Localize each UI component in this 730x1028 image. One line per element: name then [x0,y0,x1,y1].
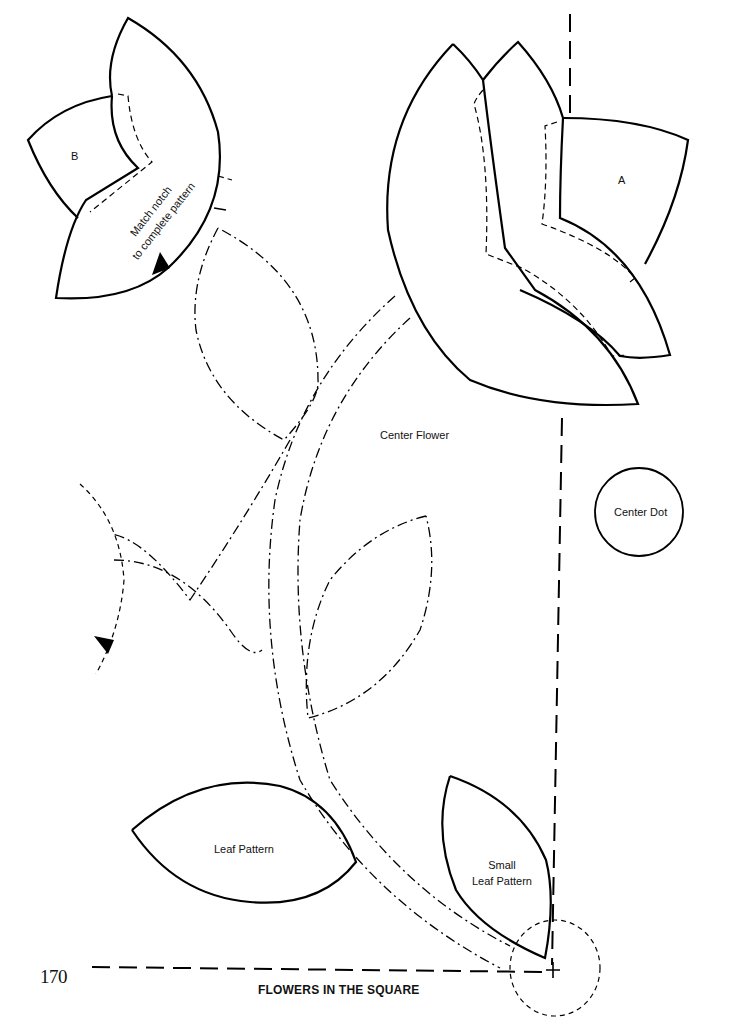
page-title: FLOWERS IN THE SQUARE [258,983,420,997]
center-dot-label: Center Dot [614,504,667,520]
piece-b-label: B [71,148,78,164]
center-flower-petals [387,42,688,405]
small-leaf-line-1: Small [472,857,532,873]
piece-a-label: A [618,172,625,188]
leaf-pattern-label: Leaf Pattern [214,841,274,857]
registration-mark [510,920,600,1016]
center-flower-label: Center Flower [380,427,449,443]
notch-triangle-icon [152,252,170,275]
page-number: 170 [40,966,67,988]
notch-triangle-icon [94,636,114,654]
stem-guides [112,296,510,968]
leaf-placement-guides [80,228,432,718]
block-square-guides [92,14,570,972]
small-leaf-line-2: Leaf Pattern [472,873,532,889]
small-leaf-pattern-label: Small Leaf Pattern [472,857,532,889]
